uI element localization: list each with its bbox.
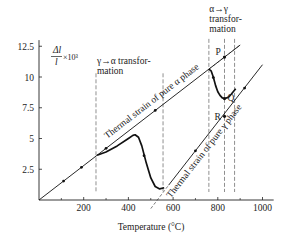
direction-arrow [243, 87, 246, 90]
annotation-alpha-to-gamma: α→γ [209, 4, 228, 14]
annotation-alpha-to-gamma: transfor- [209, 14, 242, 24]
y-tick-label: 12.5 [17, 42, 34, 52]
point-label-q: Q [228, 93, 235, 103]
x-tick-label: 800 [211, 203, 226, 213]
direction-arrow [154, 109, 157, 112]
direction-arrow [80, 166, 83, 169]
point-marker-q [223, 97, 226, 100]
point-label-p: P [216, 47, 221, 57]
direction-arrow [105, 147, 108, 150]
x-tick-label: 600 [166, 203, 181, 213]
x-axis-title: Temperature (°C) [118, 222, 185, 233]
labels: PQRγ→α transfor-mationα→γtransfor-mation… [96, 4, 244, 200]
y-tick-label: 2.5 [22, 165, 34, 175]
direction-arrow [62, 180, 65, 183]
direction-arrow [143, 154, 146, 157]
gamma-line-label: Thermal strain of pure γ phase [165, 102, 244, 200]
chart: 20040060080010002.557.51012.5 PQRγ→α tra… [0, 0, 286, 237]
annotation-alpha-to-gamma: mation [209, 24, 236, 34]
x-tick-label: 1000 [253, 203, 272, 213]
y-axis-title-denominator: l [55, 57, 58, 67]
y-tick-label: 10 [25, 73, 35, 83]
annotation-gamma-to-alpha: mation [97, 66, 124, 76]
x-tick-label: 400 [121, 203, 136, 213]
annotation-gamma-to-alpha: γ→α transfor- [96, 56, 151, 66]
point-marker-p [223, 55, 226, 58]
y-tick-label: 5 [29, 134, 34, 144]
y-axis-title-suffix: ×10³ [63, 53, 79, 62]
y-axis-title-numerator: Δl [52, 45, 62, 55]
x-tick-label: 200 [77, 203, 92, 213]
direction-arrow [212, 76, 215, 79]
y-tick-label: 7.5 [22, 103, 34, 113]
series-line [97, 135, 164, 189]
